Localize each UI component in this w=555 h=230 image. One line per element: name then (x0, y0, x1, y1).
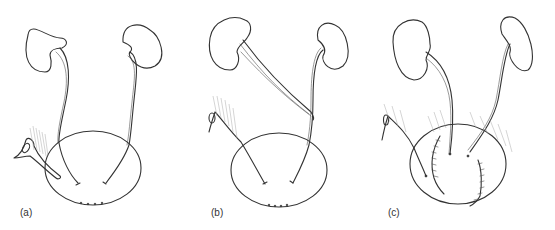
right-ureter (470, 44, 510, 152)
spermatic-cord (209, 112, 265, 184)
bladder (231, 133, 327, 207)
panel-label-b: (b) (211, 207, 223, 218)
right-kidney (317, 23, 348, 69)
diagram-panel-a (0, 0, 185, 230)
tissue-hatching (213, 96, 237, 138)
spermatic-cord (14, 138, 61, 178)
right-kidney (501, 17, 533, 71)
left-ureter (59, 48, 78, 183)
suture-line-left (432, 136, 444, 194)
bladder (45, 131, 141, 205)
right-ureter (106, 52, 137, 183)
panel-c: (c) (370, 0, 555, 230)
right-kidney (123, 25, 162, 68)
bladder (410, 124, 506, 204)
left-kidney (393, 20, 430, 80)
diagram-panel-c (370, 0, 555, 230)
panel-label-a: (a) (20, 207, 32, 218)
right-ureter (293, 50, 323, 183)
left-kidney (209, 18, 250, 70)
left-ureter (426, 52, 453, 154)
suture-line-right (470, 160, 481, 206)
panel-a: (a) (0, 0, 185, 230)
left-kidney (26, 29, 66, 72)
diagram-panel-b (185, 0, 370, 230)
left-ureter (243, 40, 314, 120)
panel-b: (b) (185, 0, 370, 230)
panel-label-c: (c) (388, 207, 400, 218)
